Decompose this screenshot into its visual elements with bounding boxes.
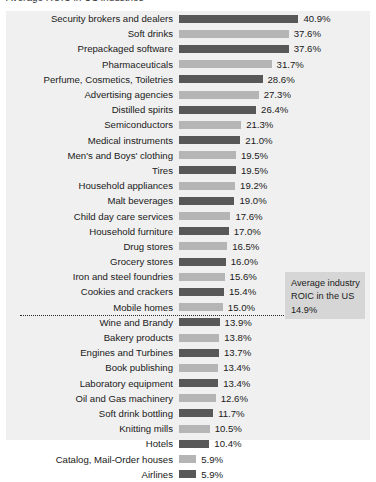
bar-category-label: Household furniture: [0, 226, 179, 237]
bar-value-label: 21.3%: [246, 119, 273, 130]
bar: [179, 151, 236, 159]
bar-row: Book publishing13.4%: [0, 360, 364, 375]
bar-track: 16.0%: [179, 254, 364, 269]
bar: [179, 15, 298, 23]
bar: [179, 288, 224, 296]
bar-value-label: 19.5%: [241, 150, 268, 161]
bar: [179, 349, 219, 357]
bar: [179, 75, 263, 83]
bar-row: Malt beverages19.0%: [0, 193, 364, 208]
bar-track: 10.5%: [179, 421, 364, 436]
bar-track: 17.0%: [179, 224, 364, 239]
callout-line-2: ROIC in the US: [291, 290, 360, 303]
average-roic-callout: Average industry ROIC in the US 14.9%: [285, 272, 365, 319]
bar-value-label: 13.7%: [224, 347, 251, 358]
bar-track: 27.3%: [179, 87, 364, 102]
bar-value-label: 19.5%: [241, 165, 268, 176]
bar-category-label: Hotels: [0, 438, 179, 449]
bar: [179, 136, 240, 144]
bar-category-label: Oil and Gas machinery: [0, 393, 179, 404]
bar-value-label: 37.6%: [294, 28, 321, 39]
bar-category-label: Men's and Boys' clothing: [0, 150, 179, 161]
bar-category-label: Soft drinks: [0, 28, 179, 39]
bar-row: Knitting mills10.5%: [0, 421, 364, 436]
bar-category-label: Medical instruments: [0, 135, 179, 146]
bar-row: Distilled spirits26.4%: [0, 102, 364, 117]
bar-track: 26.4%: [179, 102, 364, 117]
bar-value-label: 27.3%: [264, 89, 291, 100]
bar-value-label: 10.4%: [214, 438, 241, 449]
bar: [179, 379, 218, 387]
bar-category-label: Grocery stores: [0, 256, 179, 267]
bar-category-label: Child day care services: [0, 211, 179, 222]
bar-track: 28.6%: [179, 72, 364, 87]
bar: [179, 60, 272, 68]
bar-row: Semiconductors21.3%: [0, 117, 364, 132]
bar-category-label: Catalog, Mail-Order houses: [0, 454, 179, 465]
bar-row: Men's and Boys' clothing19.5%: [0, 148, 364, 163]
bar-track: 40.9%: [179, 11, 364, 26]
bar: [179, 166, 236, 174]
bar-value-label: 26.4%: [261, 104, 288, 115]
bar-category-label: Security brokers and dealers: [0, 13, 179, 24]
bar-value-label: 13.8%: [224, 332, 251, 343]
bar-value-label: 13.9%: [225, 317, 252, 328]
bar-value-label: 21.0%: [245, 135, 272, 146]
bar-value-label: 31.7%: [277, 59, 304, 70]
bar-category-label: Bakery products: [0, 332, 179, 343]
bar-row: Perfume, Cosmetics, Toiletries28.6%: [0, 72, 364, 87]
bar-track: 5.9%: [179, 467, 364, 482]
bar-row: Tires19.5%: [0, 163, 364, 178]
bar-row: Advertising agencies27.3%: [0, 87, 364, 102]
bar-track: 10.4%: [179, 436, 364, 451]
bar-row: Bakery products13.8%: [0, 330, 364, 345]
bar-category-label: Distilled spirits: [0, 104, 179, 115]
bar: [179, 394, 216, 402]
bar-category-label: Perfume, Cosmetics, Toiletries: [0, 74, 179, 85]
bar-row: Pharmaceuticals31.7%: [0, 57, 364, 72]
bar-category-label: Pharmaceuticals: [0, 59, 179, 70]
bar-row: Soft drinks37.6%: [0, 26, 364, 41]
bar: [179, 258, 226, 266]
bar: [179, 182, 235, 190]
callout-value: 14.9%: [291, 304, 360, 317]
bar-row: Oil and Gas machinery12.6%: [0, 391, 364, 406]
bar-category-label: Wine and Brandy: [0, 317, 179, 328]
bar-row: Household appliances19.2%: [0, 178, 364, 193]
bar-value-label: 12.6%: [221, 393, 248, 404]
bar-value-label: 28.6%: [268, 74, 295, 85]
bar-track: 13.8%: [179, 330, 364, 345]
bar-category-label: Malt beverages: [0, 195, 179, 206]
bar-value-label: 17.0%: [234, 226, 261, 237]
bar-category-label: Mobile homes: [0, 302, 179, 313]
bar: [179, 30, 289, 38]
bar-track: 37.6%: [179, 26, 364, 41]
bar: [179, 106, 256, 114]
average-reference-line: [20, 315, 312, 316]
bar-category-label: Advertising agencies: [0, 89, 179, 100]
bar-value-label: 19.0%: [239, 195, 266, 206]
bar-row: Medical instruments21.0%: [0, 133, 364, 148]
bar-category-label: Iron and steel foundries: [0, 271, 179, 282]
bar: [179, 425, 210, 433]
bar-value-label: 5.9%: [201, 469, 223, 480]
bar-track: 19.2%: [179, 178, 364, 193]
bar-value-label: 16.5%: [232, 241, 259, 252]
bar-track: 19.5%: [179, 163, 364, 178]
bar-row: Grocery stores16.0%: [0, 254, 364, 269]
bar-row: Airlines5.9%: [0, 467, 364, 482]
bar: [179, 45, 289, 53]
bar-row: Household furniture17.0%: [0, 224, 364, 239]
bar: [179, 91, 259, 99]
bar-category-label: Drug stores: [0, 241, 179, 252]
bar: [179, 303, 223, 311]
bar-category-label: Soft drink bottling: [0, 408, 179, 419]
bar-value-label: 13.4%: [223, 378, 250, 389]
bar-value-label: 15.4%: [229, 286, 256, 297]
bar-track: 16.5%: [179, 239, 364, 254]
bar-value-label: 13.4%: [223, 362, 250, 373]
bar-track: 37.6%: [179, 41, 364, 56]
bar-track: 21.0%: [179, 133, 364, 148]
bar-row: Catalog, Mail-Order houses5.9%: [0, 451, 364, 466]
bar-track: 12.6%: [179, 391, 364, 406]
